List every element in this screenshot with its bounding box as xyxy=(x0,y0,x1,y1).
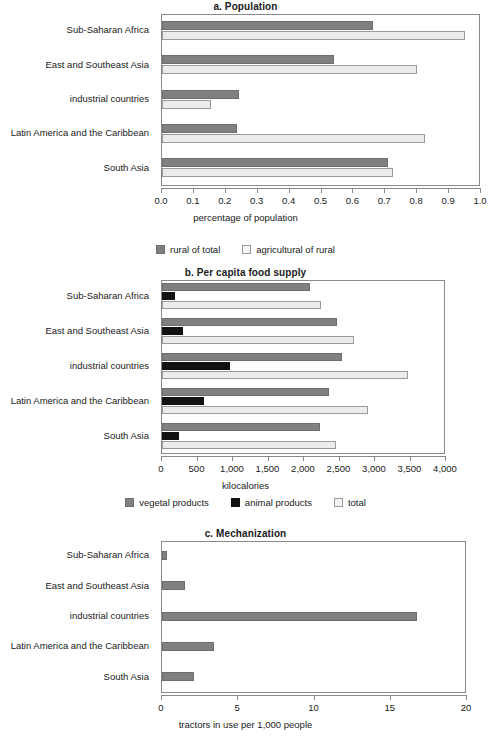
bar xyxy=(162,423,320,431)
axis-tick xyxy=(410,456,411,461)
legend-label: animal products xyxy=(245,497,312,508)
bar xyxy=(162,65,417,74)
legend-swatch-icon xyxy=(156,245,165,254)
bar xyxy=(162,353,342,361)
axis-tick xyxy=(390,695,391,700)
panel-a-title: a. Population xyxy=(0,0,491,14)
axis-tick xyxy=(193,188,194,193)
panel-c-category-labels: Sub-Saharan AfricaEast and Southeast Asi… xyxy=(0,541,155,693)
axis-tick xyxy=(257,188,258,193)
panel-a-plot-area xyxy=(161,14,480,186)
axis-tick xyxy=(448,188,449,193)
chart-panel-population: a. Population Sub-Saharan AfricaEast and… xyxy=(0,0,491,186)
bar xyxy=(162,318,337,326)
axis-tick-label: 0.6 xyxy=(346,195,359,206)
axis-tick-label: 2,000 xyxy=(291,463,315,474)
legend-item: vegetal products xyxy=(125,497,209,508)
axis-tick-label: 15 xyxy=(384,702,395,713)
axis-tick-label: 0.4 xyxy=(282,195,295,206)
axis-tick-label: 0.3 xyxy=(250,195,263,206)
category-label: Sub-Saharan Africa xyxy=(67,24,149,35)
axis-tick xyxy=(321,188,322,193)
category-label: industrial countries xyxy=(70,610,149,621)
legend-label: vegetal products xyxy=(139,497,209,508)
bar xyxy=(162,642,214,651)
bar xyxy=(162,292,175,300)
legend-item: agricultural of rural xyxy=(242,244,335,255)
axis-title: kilocalories xyxy=(0,480,491,491)
axis-tick xyxy=(445,456,446,461)
axis-tick-label: 5 xyxy=(235,702,240,713)
axis-tick-label: 3,500 xyxy=(398,463,422,474)
panel-b-title: b. Per capita food supply xyxy=(0,266,491,280)
panel-b-x-axis: 05001,0001,5002,0002,5003,0003,5004,000k… xyxy=(0,456,491,496)
axis-tick-label: 1.0 xyxy=(473,195,486,206)
category-label: South Asia xyxy=(104,670,149,681)
axis-tick xyxy=(384,188,385,193)
chart-panel-mechanization: c. Mechanization Sub-Saharan AfricaEast … xyxy=(0,527,491,693)
bar xyxy=(162,362,230,370)
axis-tick-label: 0.7 xyxy=(378,195,391,206)
category-label: East and Southeast Asia xyxy=(45,325,149,336)
chart-panel-food-supply: b. Per capita food supply Sub-Saharan Af… xyxy=(0,266,491,454)
category-label: Latin America and the Caribbean xyxy=(11,394,149,405)
axis-tick xyxy=(303,456,304,461)
bar xyxy=(162,388,329,396)
legend-swatch-icon xyxy=(242,245,251,254)
axis-tick-label: 4,000 xyxy=(433,463,457,474)
bar xyxy=(162,168,393,177)
bar xyxy=(162,21,373,30)
legend-item: total xyxy=(334,497,366,508)
bar xyxy=(162,551,167,560)
axis-title: tractors in use per 1,000 people xyxy=(0,719,491,730)
panel-b-legend: vegetal productsanimal productstotal xyxy=(0,497,491,508)
axis-tick xyxy=(374,456,375,461)
category-label: Latin America and the Caribbean xyxy=(11,640,149,651)
axis-tick-label: 0.1 xyxy=(186,195,199,206)
legend-label: rural of total xyxy=(170,244,220,255)
axis-tick xyxy=(314,695,315,700)
legend-swatch-icon xyxy=(334,498,343,507)
axis-tick-label: 1,000 xyxy=(220,463,244,474)
category-label: industrial countries xyxy=(70,93,149,104)
category-label: industrial countries xyxy=(70,360,149,371)
panel-c-x-axis: 05101520tractors in use per 1,000 people xyxy=(0,695,491,735)
axis-tick-label: 20 xyxy=(461,702,472,713)
bar xyxy=(162,301,321,309)
bar xyxy=(162,371,408,379)
panel-a-category-labels: Sub-Saharan AfricaEast and Southeast Asi… xyxy=(0,14,155,186)
bar xyxy=(162,31,465,40)
axis-tick-label: 0 xyxy=(158,463,163,474)
bar xyxy=(162,672,194,681)
axis-tick xyxy=(161,456,162,461)
bar xyxy=(162,283,310,291)
axis-tick xyxy=(289,188,290,193)
axis-tick-label: 10 xyxy=(308,702,319,713)
category-label: South Asia xyxy=(104,429,149,440)
bar xyxy=(162,327,183,335)
bar xyxy=(162,55,334,64)
bar xyxy=(162,336,354,344)
legend-swatch-icon xyxy=(125,498,134,507)
axis-tick xyxy=(339,456,340,461)
bar xyxy=(162,158,388,167)
bar xyxy=(162,441,336,449)
bar xyxy=(162,124,237,133)
legend-swatch-icon xyxy=(231,498,240,507)
legend-label: agricultural of rural xyxy=(256,244,335,255)
axis-tick-label: 0.0 xyxy=(154,195,167,206)
bar xyxy=(162,432,179,440)
panel-b-category-labels: Sub-Saharan AfricaEast and Southeast Asi… xyxy=(0,280,155,454)
bar xyxy=(162,100,211,109)
axis-tick xyxy=(232,456,233,461)
axis-title: percentage of population xyxy=(0,212,491,223)
axis-tick xyxy=(416,188,417,193)
axis-tick xyxy=(161,695,162,700)
axis-tick-label: 0.2 xyxy=(218,195,231,206)
category-label: Sub-Saharan Africa xyxy=(67,290,149,301)
legend-item: rural of total xyxy=(156,244,220,255)
axis-tick xyxy=(225,188,226,193)
legend-item: animal products xyxy=(231,497,312,508)
axis-tick xyxy=(161,188,162,193)
axis-tick xyxy=(197,456,198,461)
